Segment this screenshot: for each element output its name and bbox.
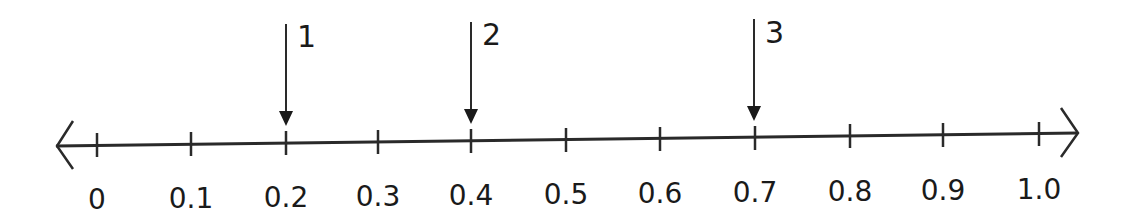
pointer-arrow-2: 2 [464, 17, 501, 124]
arrowhead-icon [464, 109, 478, 124]
tick-label: 0.3 [356, 180, 401, 213]
tick-label: 0.7 [733, 176, 778, 209]
arrow-label: 3 [765, 15, 784, 50]
tick-label: 1.0 [1017, 173, 1062, 206]
tick-label: 0.9 [921, 174, 966, 207]
arrowhead-icon [279, 111, 293, 126]
arrow-label: 2 [482, 17, 501, 52]
arrowhead-icon [747, 106, 761, 121]
tick-label: 0.6 [638, 177, 683, 210]
tick-label: 0.2 [264, 181, 309, 214]
arrow-label: 1 [297, 19, 316, 54]
tick-label: 0.5 [544, 178, 589, 211]
pointer-arrow-1: 1 [279, 19, 316, 126]
tick-label: 0.1 [169, 182, 214, 215]
pointer-arrow-3: 3 [747, 15, 784, 121]
tick-label: 0.8 [828, 175, 873, 208]
number-line-diagram: 0 0.1 0.2 0.3 0.4 0.5 0.6 0.7 0.8 0.9 1.… [0, 0, 1126, 220]
tick-labels: 0 0.1 0.2 0.3 0.4 0.5 0.6 0.7 0.8 0.9 1.… [88, 173, 1061, 216]
tick-label: 0 [88, 183, 106, 216]
tick-label: 0.4 [449, 179, 494, 212]
